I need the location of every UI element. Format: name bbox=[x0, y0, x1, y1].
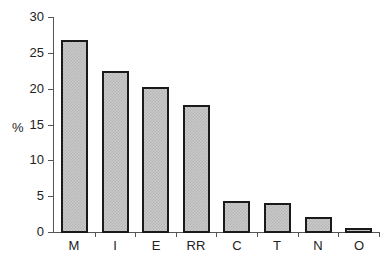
x-tick-label: RR bbox=[176, 238, 216, 253]
y-tick bbox=[48, 160, 54, 161]
bar-i bbox=[102, 71, 129, 233]
bar-t bbox=[264, 203, 291, 233]
x-tick bbox=[95, 232, 96, 237]
y-tick bbox=[48, 53, 54, 54]
x-tick bbox=[338, 232, 339, 237]
x-tick-label: I bbox=[95, 238, 135, 253]
y-tick bbox=[48, 17, 54, 18]
x-tick-label: E bbox=[136, 238, 176, 253]
y-tick bbox=[48, 196, 54, 197]
x-tick bbox=[298, 232, 299, 237]
y-tick bbox=[48, 232, 54, 233]
bar-c bbox=[223, 201, 250, 233]
bar-o bbox=[345, 228, 372, 233]
y-tick-label: 15 bbox=[4, 118, 44, 132]
bar-e bbox=[142, 87, 169, 233]
bar-n bbox=[305, 217, 332, 233]
x-tick bbox=[257, 232, 258, 237]
bar-m bbox=[61, 40, 88, 233]
x-tick-label: O bbox=[339, 238, 379, 253]
y-tick bbox=[48, 89, 54, 90]
x-tick bbox=[135, 232, 136, 237]
y-tick bbox=[48, 125, 54, 126]
x-tick-label: M bbox=[54, 238, 94, 253]
x-tick-label: T bbox=[257, 238, 297, 253]
y-tick-label: 25 bbox=[4, 46, 44, 60]
y-tick-label: 5 bbox=[4, 189, 44, 203]
y-tick-label: 20 bbox=[4, 82, 44, 96]
x-tick bbox=[379, 232, 380, 237]
x-tick bbox=[216, 232, 217, 237]
x-tick-label: N bbox=[298, 238, 338, 253]
x-tick bbox=[176, 232, 177, 237]
bar-chart: % 051015202530 MIERRCTNO bbox=[0, 0, 390, 261]
y-tick-label: 0 bbox=[4, 225, 44, 239]
bar-rr bbox=[183, 105, 210, 233]
x-tick-label: C bbox=[217, 238, 257, 253]
y-tick-label: 10 bbox=[4, 153, 44, 167]
y-tick-label: 30 bbox=[4, 10, 44, 24]
